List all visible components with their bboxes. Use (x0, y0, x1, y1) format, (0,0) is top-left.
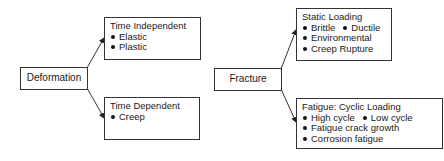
item-plastic: Plastic (119, 41, 147, 52)
item-low-cycle: Low cycle (371, 112, 413, 123)
bullet-icon (111, 35, 115, 39)
bullet-icon (303, 116, 307, 120)
time-dependent-node: Time Dependent Creep (104, 97, 200, 140)
arrow-deformation-to-time-independent (87, 38, 104, 68)
bullet-icon (303, 36, 307, 40)
arrow-deformation-to-time-dependent (87, 88, 104, 118)
item-elastic: Elastic (119, 31, 147, 42)
bullet-icon (303, 47, 307, 51)
bullet-icon (363, 116, 367, 120)
arrow-fracture-to-static-loading (281, 30, 296, 69)
deformation-node: Deformation (20, 67, 88, 90)
item-environmental: Environmental (311, 32, 372, 43)
fracture-node: Fracture (214, 68, 282, 91)
bullet-icon (303, 26, 307, 30)
item-creep: Creep (119, 111, 145, 122)
item-fatigue-crack-growth: Fatigue crack growth (311, 122, 399, 133)
bullet-icon (303, 126, 307, 130)
item-corrosion-fatigue: Corrosion fatigue (311, 133, 383, 144)
arrow-fracture-to-fatigue (281, 89, 296, 122)
bullet-icon (303, 137, 307, 141)
bullet-icon (111, 115, 115, 119)
item-ductile: Ductile (351, 22, 380, 33)
bullet-icon (343, 26, 347, 30)
static-loading-node: Static Loading BrittleDuctile Environmen… (296, 8, 392, 61)
deformation-label: Deformation (27, 73, 81, 84)
item-brittle: Brittle (311, 22, 335, 33)
time-independent-node: Time Independent Elastic Plastic (104, 17, 201, 60)
fracture-label: Fracture (229, 74, 266, 85)
item-high-cycle: High cycle (311, 112, 355, 123)
item-creep-rupture: Creep Rupture (311, 43, 373, 54)
diagram-canvas: Deformation Time Independent Elastic Pla… (0, 0, 444, 161)
fatigue-node: Fatigue: Cyclic Loading High cycleLow cy… (296, 98, 443, 149)
bullet-icon (111, 45, 115, 49)
